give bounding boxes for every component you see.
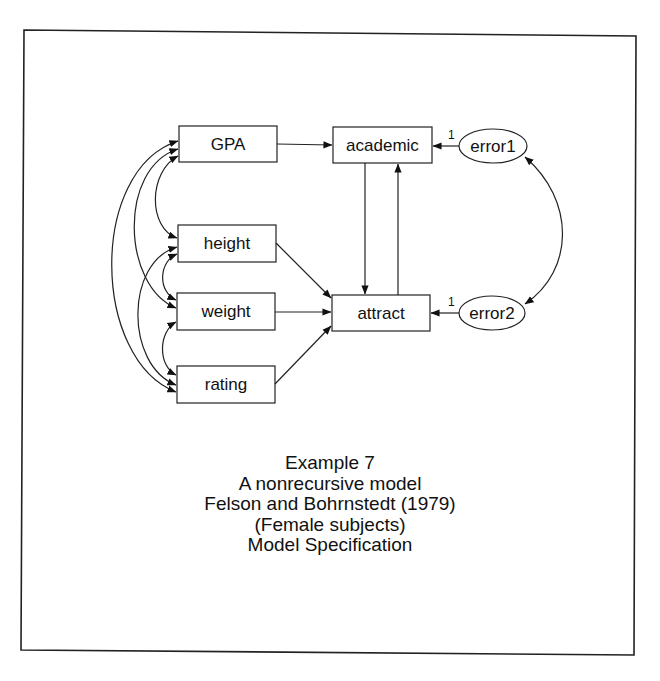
node-error2-label: error2	[469, 304, 514, 323]
node-weight: weight	[177, 293, 275, 330]
cov-weight-rating	[163, 322, 177, 375]
node-attract-label: attract	[357, 304, 405, 323]
cov-error1-error2	[525, 157, 563, 304]
path-gpa-academic	[277, 144, 332, 145]
cov-gpa-weight	[134, 149, 178, 308]
path-rating-attract	[275, 326, 331, 384]
node-gpa-label: GPA	[211, 135, 246, 154]
node-rating: rating	[177, 366, 275, 403]
caption-citation: Felson and Bohrnstedt (1979)	[0, 494, 660, 515]
node-gpa: GPA	[179, 126, 277, 162]
node-height: height	[178, 225, 276, 262]
path-height-attract	[276, 243, 331, 298]
node-error1: error1	[459, 129, 527, 163]
figure-caption: Example 7 A nonrecursive model Felson an…	[0, 453, 660, 556]
node-height-label: height	[204, 234, 251, 253]
caption-spec: Model Specification	[0, 535, 660, 556]
path-diagram: GPA height weight rating academic attrac…	[0, 0, 660, 681]
node-error1-label: error1	[470, 137, 515, 156]
node-attract: attract	[332, 295, 430, 331]
path-label-error2: 1	[448, 295, 455, 309]
node-academic: academic	[333, 127, 432, 163]
figure-frame	[21, 30, 636, 655]
node-error2: error2	[459, 296, 525, 330]
node-weight-label: weight	[200, 302, 250, 321]
caption-model-type: A nonrecursive model	[0, 474, 660, 495]
cov-height-rating	[138, 247, 177, 385]
caption-title: Example 7	[0, 453, 660, 474]
path-label-error1: 1	[448, 128, 455, 142]
cov-height-weight	[163, 254, 177, 300]
node-academic-label: academic	[346, 136, 419, 155]
node-rating-label: rating	[205, 375, 248, 394]
cov-gpa-height	[155, 156, 178, 238]
caption-subjects: (Female subjects)	[0, 515, 660, 536]
